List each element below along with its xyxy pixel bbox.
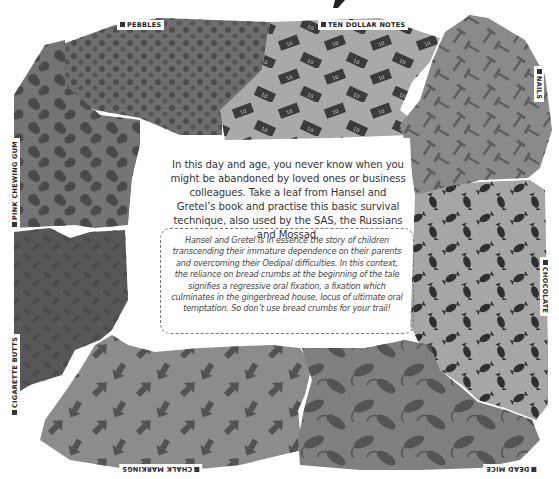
- zone-chalk-markings: [40, 335, 312, 470]
- square-bullet-icon: [531, 467, 536, 472]
- label-text: TEN DOLLAR NOTES: [328, 21, 405, 29]
- label-text: PEBBLES: [127, 21, 161, 29]
- label-text: CHOCOLATE: [541, 267, 549, 313]
- square-bullet-icon: [12, 410, 17, 415]
- square-bullet-icon: [543, 260, 548, 265]
- square-bullet-icon: [321, 22, 326, 27]
- label-chocolate: CHOCOLATE: [540, 257, 550, 316]
- label-text: NAILS: [535, 76, 543, 99]
- title-fragment: [333, 0, 345, 8]
- square-bullet-icon: [537, 69, 542, 74]
- square-bullet-icon: [194, 467, 199, 472]
- label-text: CHALK MARKINGS: [122, 465, 192, 473]
- square-bullet-icon: [120, 22, 125, 27]
- label-text: PINK CHEWING GUM: [11, 141, 19, 220]
- label-text: DEAD MICE: [486, 465, 529, 473]
- label-pebbles: PEBBLES: [117, 20, 164, 30]
- label-chalk-markings: CHALK MARKINGS: [119, 464, 202, 474]
- label-text: CIGARETTE BUTTS: [11, 337, 19, 408]
- label-dead-mice: DEAD MICE: [483, 464, 539, 474]
- label-pink-chewing-gum: PINK CHEWING GUM: [10, 138, 20, 230]
- aside-paragraph: Hansel and Gretel is in essence the stor…: [171, 235, 402, 313]
- label-nails: NAILS: [534, 66, 544, 102]
- label-ten-dollar-notes: TEN DOLLAR NOTES: [318, 20, 408, 30]
- label-cigarette-butts: CIGARETTE BUTTS: [10, 334, 20, 418]
- square-bullet-icon: [12, 222, 17, 227]
- aside-box: Hansel and Gretel is in essence the stor…: [160, 228, 414, 334]
